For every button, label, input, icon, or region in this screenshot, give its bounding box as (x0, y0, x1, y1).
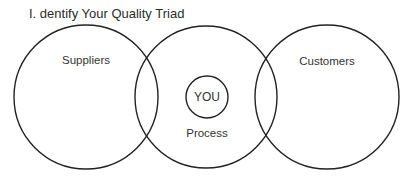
suppliers-label: Suppliers (62, 54, 110, 66)
quality-triad-venn: Suppliers Customers YOU Process (0, 0, 412, 179)
customers-label: Customers (299, 55, 355, 67)
you-label: YOU (194, 90, 220, 104)
process-label: Process (186, 127, 228, 139)
suppliers-circle (14, 25, 158, 169)
